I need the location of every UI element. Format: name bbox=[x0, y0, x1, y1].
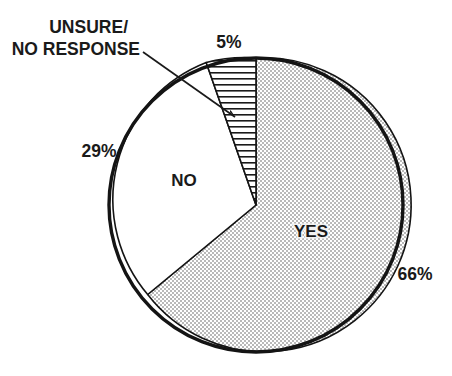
unsure-callout-line-1: UNSURE/ bbox=[49, 17, 128, 37]
pct-label-unsure: 5% bbox=[216, 32, 242, 52]
pie-chart-canvas: UNSURE/ NO RESPONSE 5% 29% 66% NO YES bbox=[0, 0, 452, 376]
slice-label-no: NO bbox=[171, 171, 197, 190]
pie-chart-figure: UNSURE/ NO RESPONSE 5% 29% 66% NO YES bbox=[0, 0, 452, 376]
pct-label-no: 29% bbox=[81, 141, 116, 161]
unsure-callout-line-2: NO RESPONSE bbox=[12, 39, 140, 59]
pct-label-yes: 66% bbox=[397, 264, 432, 284]
slice-label-yes: YES bbox=[294, 222, 328, 241]
